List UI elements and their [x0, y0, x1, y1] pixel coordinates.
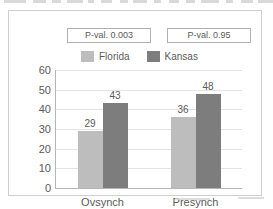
- bar-kansas-ovsynch: 43: [103, 103, 128, 188]
- bar-value-label: 29: [84, 118, 95, 129]
- scan-smudge: [175, 198, 210, 200]
- p-value-box-presynch: P-val. 0.95: [167, 28, 251, 43]
- bar-kansas-presynch: 48: [196, 94, 221, 188]
- y-axis-tick-label: 10: [39, 162, 51, 174]
- bar-value-label: 43: [109, 90, 120, 101]
- gridline: [56, 70, 242, 71]
- y-axis-tick-label: 50: [39, 84, 51, 96]
- bar-florida-presynch: 36: [171, 117, 196, 188]
- figure-frame: P-val. 0.003 P-val. 0.95 Florida Kansas …: [8, 10, 262, 196]
- y-axis-tick-label: 60: [39, 64, 51, 76]
- bar-value-label: 48: [202, 81, 213, 92]
- chart-legend: Florida Kansas: [81, 50, 198, 63]
- y-axis-tick-label: 0: [45, 182, 51, 194]
- legend-swatch-florida: [81, 51, 94, 62]
- gridline: [56, 90, 242, 91]
- bar-value-label: 36: [177, 104, 188, 115]
- cut-off-text-sliver: [0, 0, 273, 7]
- legend-entry-florida: Florida: [81, 51, 130, 62]
- legend-entry-kansas: Kansas: [147, 51, 198, 62]
- scan-smudge: [238, 197, 264, 199]
- legend-label-kansas: Kansas: [165, 51, 198, 62]
- y-axis-tick-label: 40: [39, 103, 51, 115]
- y-axis-tick-label: 30: [39, 123, 51, 135]
- y-axis-tick-label: 20: [39, 143, 51, 155]
- plot-area: 01020304050602943Ovsynch3648Presynch: [55, 70, 242, 189]
- bar-florida-ovsynch: 29: [78, 131, 103, 188]
- legend-label-florida: Florida: [99, 51, 130, 62]
- legend-swatch-kansas: [147, 51, 160, 62]
- plot-wrapper: 01020304050602943Ovsynch3648Presynch: [23, 68, 263, 208]
- x-axis-category-label: Ovsynch: [81, 196, 124, 208]
- p-value-box-ovsynch: P-val. 0.003: [67, 28, 151, 43]
